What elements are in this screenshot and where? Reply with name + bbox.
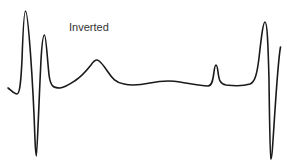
- waveform-label: Inverted: [69, 21, 109, 34]
- inverted-waveform-trace: [8, 11, 281, 159]
- ecg-waveform-diagram: [0, 0, 287, 164]
